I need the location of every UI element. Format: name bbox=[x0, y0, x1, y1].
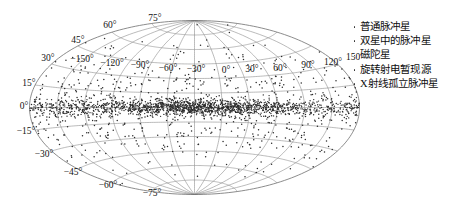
data-point bbox=[327, 110, 328, 111]
data-point bbox=[48, 123, 50, 125]
data-point bbox=[269, 99, 270, 100]
latitude-tick-label: −75° bbox=[143, 188, 162, 198]
data-point bbox=[318, 100, 319, 101]
data-point bbox=[114, 78, 116, 80]
data-point bbox=[202, 103, 203, 104]
data-point bbox=[192, 112, 193, 113]
data-point bbox=[207, 96, 209, 98]
data-point bbox=[282, 112, 283, 113]
data-point bbox=[147, 110, 148, 111]
data-point bbox=[107, 138, 109, 140]
data-point bbox=[93, 111, 94, 112]
data-point bbox=[276, 147, 278, 149]
data-point bbox=[38, 109, 39, 110]
data-point bbox=[76, 106, 77, 107]
data-point bbox=[312, 166, 314, 168]
data-point bbox=[200, 80, 202, 82]
data-point bbox=[69, 107, 70, 108]
data-point bbox=[60, 113, 61, 114]
data-point bbox=[235, 117, 237, 119]
data-point bbox=[183, 143, 185, 145]
data-point bbox=[168, 105, 169, 106]
data-point bbox=[334, 108, 335, 109]
data-point bbox=[71, 146, 73, 148]
data-point bbox=[47, 103, 48, 104]
data-point bbox=[263, 108, 264, 109]
legend-item-xray-isolated-pulsar[interactable]: X射线孤立脉冲星 bbox=[352, 77, 457, 91]
data-point bbox=[133, 110, 135, 112]
legend-item-rrat[interactable]: 旋转射电暂现源 bbox=[352, 63, 457, 77]
data-point bbox=[316, 108, 317, 109]
data-point bbox=[245, 96, 247, 98]
data-point bbox=[97, 80, 99, 82]
data-point bbox=[230, 111, 231, 112]
data-point bbox=[111, 100, 112, 101]
data-point bbox=[49, 106, 50, 107]
data-point bbox=[176, 134, 178, 136]
data-point bbox=[236, 109, 237, 110]
data-point bbox=[86, 132, 88, 134]
data-point bbox=[281, 106, 283, 108]
data-point bbox=[96, 106, 97, 107]
data-point bbox=[73, 71, 75, 73]
data-point bbox=[183, 52, 185, 54]
data-point bbox=[175, 102, 176, 103]
data-point bbox=[180, 109, 181, 110]
data-point bbox=[211, 118, 213, 120]
data-point bbox=[319, 151, 321, 153]
data-point bbox=[164, 146, 166, 148]
data-point bbox=[139, 105, 140, 106]
data-point bbox=[246, 120, 248, 122]
data-point bbox=[260, 112, 261, 113]
data-point bbox=[211, 131, 213, 133]
data-point bbox=[99, 116, 100, 117]
data-point bbox=[89, 112, 90, 113]
data-point bbox=[276, 102, 277, 103]
data-point bbox=[140, 114, 141, 115]
data-point bbox=[170, 104, 171, 105]
data-point bbox=[341, 115, 342, 116]
data-point bbox=[350, 106, 351, 107]
data-point bbox=[111, 45, 113, 47]
data-point bbox=[100, 135, 102, 137]
data-point bbox=[177, 119, 179, 121]
data-point bbox=[253, 109, 255, 111]
data-point bbox=[273, 102, 274, 103]
data-point bbox=[344, 106, 345, 107]
legend-item-binary-pulsar[interactable]: 双星中的脉冲星 bbox=[352, 34, 457, 48]
data-point bbox=[321, 149, 323, 151]
data-point bbox=[238, 169, 240, 171]
data-point bbox=[138, 101, 139, 102]
latitude-tick-label: −60° bbox=[99, 180, 118, 190]
data-point bbox=[176, 77, 178, 79]
data-point bbox=[158, 103, 159, 104]
data-point bbox=[92, 105, 94, 107]
data-point bbox=[134, 104, 135, 105]
data-point bbox=[310, 90, 312, 92]
data-point bbox=[258, 108, 259, 109]
data-point bbox=[179, 110, 180, 111]
data-point bbox=[243, 108, 244, 109]
data-point bbox=[175, 109, 176, 110]
legend-item-magnetar[interactable]: 磁陀星 bbox=[352, 48, 457, 62]
legend-item-ordinary-pulsar[interactable]: 普通脉冲星 bbox=[352, 20, 457, 34]
legend-dot-icon bbox=[352, 81, 357, 86]
data-point bbox=[281, 56, 283, 58]
data-point bbox=[54, 107, 55, 108]
data-point bbox=[200, 106, 201, 107]
data-point bbox=[181, 100, 183, 102]
data-point bbox=[142, 108, 143, 109]
data-point bbox=[297, 105, 298, 106]
data-point bbox=[253, 125, 255, 127]
data-point bbox=[231, 105, 232, 106]
data-point bbox=[201, 112, 202, 113]
data-point bbox=[163, 149, 165, 151]
data-point bbox=[216, 105, 217, 106]
data-point bbox=[346, 103, 347, 104]
data-point bbox=[139, 103, 140, 104]
data-point bbox=[132, 105, 133, 106]
data-point bbox=[228, 48, 230, 50]
data-point bbox=[266, 104, 267, 105]
data-point bbox=[135, 103, 136, 104]
data-point bbox=[288, 102, 289, 103]
